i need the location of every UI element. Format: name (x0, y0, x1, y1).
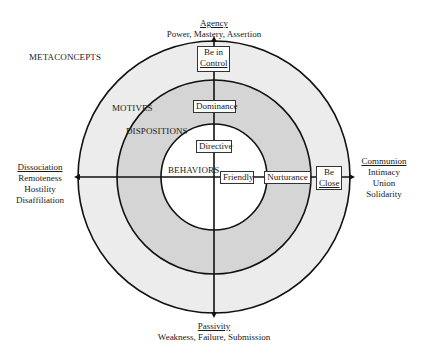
arrow-down-icon (211, 312, 217, 318)
pole-communion: Communion Intimacy Union Solidarity (354, 156, 414, 200)
box-nurturance: Nurturance (264, 171, 311, 184)
pole-passivity-subtitle: Weakness, Failure, Submission (140, 332, 288, 343)
box-be-close-line1: Be (319, 167, 339, 178)
box-be-in-control-line1: Be in (200, 47, 227, 58)
pole-communion-title: Communion (354, 156, 414, 167)
pole-communion-line: Solidarity (354, 189, 414, 200)
pole-passivity: Passivity Weakness, Failure, Submission (140, 321, 288, 343)
pole-communion-line: Union (354, 178, 414, 189)
level-behaviors: BEHAVIORS (168, 165, 219, 175)
pole-dissociation-line: Hostility (12, 184, 68, 195)
pole-passivity-title: Passivity (140, 321, 288, 332)
pole-dissociation: Dissociation Remoteness Hostility Disaff… (12, 162, 68, 206)
box-be-in-control: Be in Control (197, 46, 230, 72)
pole-agency: Agency Power, Mastery, Assertion (150, 18, 278, 40)
box-be-in-control-line2: Control (200, 58, 227, 69)
box-dominance: Dominance (193, 100, 236, 113)
pole-dissociation-line: Disaffiliation (12, 195, 68, 206)
pole-dissociation-title: Dissociation (12, 162, 68, 173)
pole-dissociation-line: Remoteness (12, 173, 68, 184)
pole-agency-subtitle: Power, Mastery, Assertion (150, 29, 278, 40)
box-be-close: Be Close (316, 166, 342, 190)
level-metaconcepts: METACONCEPTS (29, 52, 101, 62)
box-be-close-line2: Close (319, 178, 339, 189)
level-motives: MOTIVES (112, 103, 153, 113)
pole-communion-line: Intimacy (354, 167, 414, 178)
pole-agency-title: Agency (150, 18, 278, 29)
box-friendly: Friendly (220, 171, 254, 184)
level-dispositions: DISPOSITIONS (126, 126, 188, 136)
box-directive: Directive (196, 140, 232, 153)
arrow-left-icon (74, 174, 80, 180)
